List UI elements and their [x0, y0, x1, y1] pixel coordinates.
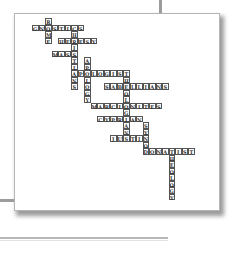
crossword-cell: Y [169, 194, 176, 201]
crossword-cell: P [78, 70, 85, 77]
crossword-cell: T [188, 148, 195, 155]
crossword-cell: I [117, 103, 124, 110]
frame-edge-top [159, 0, 162, 14]
crossword-cell: S [71, 83, 78, 90]
crossword-cell: Y [91, 38, 98, 45]
crossword-cell: S [156, 103, 163, 110]
crossword-cell: E [45, 38, 52, 45]
divider-line [0, 237, 168, 239]
crossword-cell: N [39, 25, 46, 32]
crossword-cell: S [78, 25, 85, 32]
crossword-cell: S [65, 51, 72, 58]
crossword-cell: B [117, 83, 124, 90]
divider-line-shadow [0, 240, 168, 241]
frame-edge-left [0, 199, 15, 202]
crossword-cell: E [65, 38, 72, 45]
crossword-cell: I [136, 135, 143, 142]
crossword-cell: S [162, 83, 169, 90]
crossword-grid: ROMEGNSTICSHRISTIANSHEESYMASAPOLOGYPLOGI… [32, 18, 202, 208]
crossword-cell: R [117, 116, 124, 123]
